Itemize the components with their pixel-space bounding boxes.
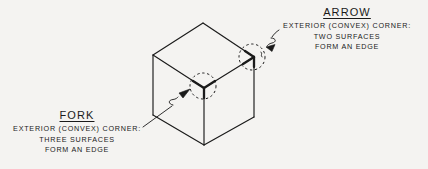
fork-description-line-3: FORM AN EDGE: [2, 145, 152, 156]
arrow-stroke-up: [245, 51, 254, 57]
fork-annotation-block: FORK EXTERIOR (CONVEX) CORNER: THREE SUR…: [2, 109, 152, 156]
cube-edge-top-apex-to-left: [153, 23, 203, 55]
fork-leader-squiggle: [169, 97, 178, 105]
fork-leader-arrowhead: [179, 89, 190, 98]
arrow-description-line-2: TWO SURFACES: [268, 32, 426, 43]
fork-description-line-2: THREE SURFACES: [2, 135, 152, 146]
fork-description-line-1: EXTERIOR (CONVEX) CORNER:: [2, 124, 152, 135]
fork-stroke-upper-right: [204, 81, 215, 88]
arrow-annotation-block: ARROW EXTERIOR (CONVEX) CORNER: TWO SURF…: [268, 6, 426, 53]
cube-edge-bottom-right: [204, 117, 254, 145]
figure-root: ARROW EXTERIOR (CONVEX) CORNER: TWO SURF…: [0, 0, 428, 169]
arrow-leader-squiggle-tick: [261, 52, 262, 57]
fork-stroke-upper-left: [193, 81, 204, 88]
arrow-description-line-3: FORM AN EDGE: [268, 42, 426, 53]
arrow-stroke-left: [243, 57, 254, 64]
fork-heading: FORK: [2, 109, 152, 121]
arrow-heading: ARROW: [268, 6, 426, 18]
cube-edge-bottom-left: [153, 115, 204, 145]
arrow-description-line-1: EXTERIOR (CONVEX) CORNER:: [268, 21, 426, 32]
arrow-junction-emphasis: [243, 51, 254, 67]
cube-outline: [153, 23, 254, 145]
